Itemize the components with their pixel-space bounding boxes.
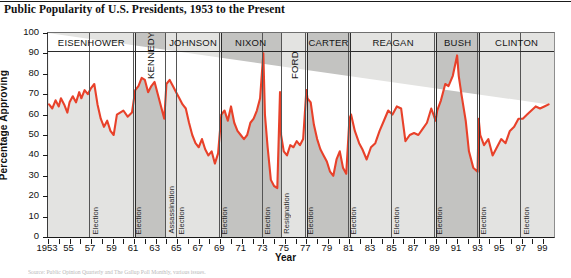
president-label-carter: CARTER bbox=[307, 33, 350, 51]
y-tick-20 bbox=[43, 196, 48, 197]
event-label-election-1: Election bbox=[134, 207, 143, 234]
event-label-election-0: Election bbox=[91, 207, 100, 234]
event-label-election-9: Election bbox=[392, 207, 401, 234]
president-label-clinton: CLINTON bbox=[479, 33, 554, 51]
president-label-nixon: NIXON bbox=[221, 33, 281, 51]
title-rule bbox=[0, 1, 571, 2]
y-tick-0 bbox=[43, 237, 48, 238]
chart-figure: Public Popularity of U.S. Presidents, 19… bbox=[0, 0, 571, 278]
president-label-johnson: JOHNSON bbox=[165, 33, 220, 51]
y-label-0: 0 bbox=[0, 231, 39, 240]
event-label-election-5: Election bbox=[263, 207, 272, 234]
y-tick-80 bbox=[43, 74, 48, 75]
y-label-100: 100 bbox=[0, 27, 39, 36]
event-label-election-12: Election bbox=[522, 207, 531, 234]
president-label-reagan: REAGAN bbox=[350, 33, 436, 51]
y-label-20: 20 bbox=[0, 190, 39, 199]
y-tick-30 bbox=[43, 176, 48, 177]
president-label-ford: FORD bbox=[281, 33, 307, 80]
y-tick-40 bbox=[43, 155, 48, 156]
event-line-election-12 bbox=[520, 33, 521, 237]
event-label-election-10: Election bbox=[435, 207, 444, 234]
y-tick-100 bbox=[43, 33, 48, 34]
x-axis-title: Year bbox=[0, 252, 571, 263]
event-label-resignation-6: Resignation bbox=[282, 193, 291, 234]
y-label-10: 10 bbox=[0, 211, 39, 220]
y-tick-10 bbox=[43, 217, 48, 218]
event-label-election-4: Election bbox=[220, 207, 229, 234]
y-label-90: 90 bbox=[0, 47, 39, 56]
y-tick-90 bbox=[43, 53, 48, 54]
event-label-election-3: Election bbox=[177, 207, 186, 234]
y-axis-title: Percentage Approving bbox=[0, 70, 9, 180]
event-line-election-11 bbox=[477, 33, 478, 237]
y-tick-60 bbox=[43, 115, 48, 116]
event-label-election-11: Election bbox=[479, 207, 488, 234]
page-title: Public Popularity of U.S. Presidents, 19… bbox=[4, 3, 564, 15]
event-label-assassination-2: Assassination bbox=[167, 186, 176, 234]
y-tick-70 bbox=[43, 94, 48, 95]
president-label-kennedy: KENNEDY bbox=[135, 33, 166, 80]
event-label-election-7: Election bbox=[306, 207, 315, 234]
president-label-bush: BUSH bbox=[436, 33, 479, 51]
y-tick-50 bbox=[43, 135, 48, 136]
event-label-election-8: Election bbox=[349, 207, 358, 234]
plot-area: ElectionElectionAssassinationElectionEle… bbox=[47, 32, 555, 238]
president-label-eisenhower: EISENHOWER bbox=[48, 33, 135, 51]
source-note: Source: Public Opinion Quarterly and The… bbox=[28, 269, 558, 276]
